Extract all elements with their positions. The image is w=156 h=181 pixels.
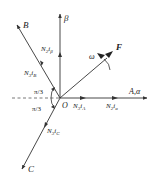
origin-label: O [62,101,68,110]
B-axis-label: B [23,20,29,30]
i-B-label: N3iB [23,69,36,78]
F-vector [60,58,107,98]
alpha-axis-label: A,α [128,87,141,96]
C-axis-label: C [28,164,35,174]
upper-angle-arrow-icon [51,87,55,91]
alpha-current-arrow-icon [112,96,118,100]
omega-label: ω [89,52,95,61]
beta-current-arrow-icon [58,52,62,57]
i-alpha-label: N2iα [105,102,118,111]
F-arrow-icon [105,51,113,58]
omega-arrow-icon [97,53,105,59]
rotation-arc [104,59,110,70]
i-beta-label: N2iβ [40,45,53,54]
A-current-arrow-icon [80,96,86,100]
beta-axis-label: β [63,13,69,23]
lower-angle-label: π/3 [32,105,41,113]
F-label: F [115,42,122,52]
upper-angle-label: π/3 [34,88,43,96]
i-C-label: N3iC [46,127,60,136]
i-A-label: N3iA [72,102,86,111]
vector-diagram: β B A,α C F ω O π/3 π/3 N2iβ N3iB N3iA N… [0,0,156,181]
